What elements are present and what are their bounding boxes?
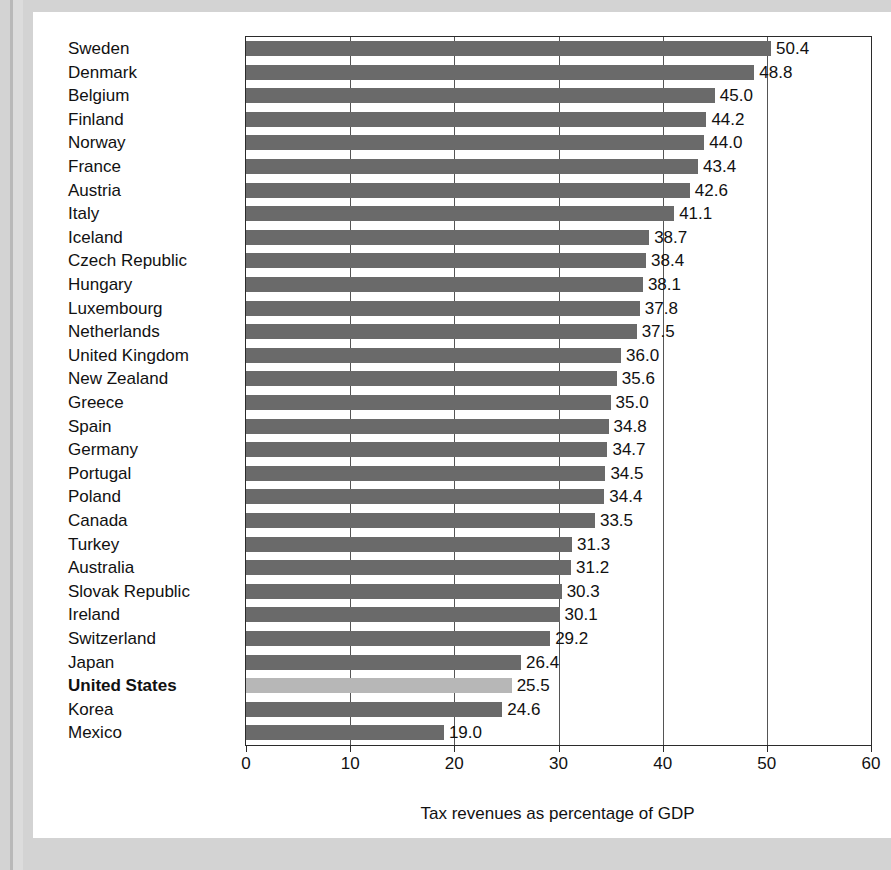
x-axis: 0102030405060 — [245, 746, 872, 780]
category-label: Poland — [68, 485, 210, 508]
bar — [246, 301, 640, 316]
bar — [246, 277, 643, 292]
x-tick-mark — [767, 746, 768, 752]
bar-value-label: 31.3 — [577, 534, 610, 555]
bar — [246, 631, 550, 646]
bar-value-label: 37.8 — [645, 298, 678, 319]
x-tick-mark — [454, 746, 455, 752]
bar-value-label: 38.1 — [648, 274, 681, 295]
bar-row: 34.4 — [246, 485, 871, 508]
category-label: New Zealand — [68, 367, 210, 390]
bar-value-label: 35.6 — [622, 368, 655, 389]
category-label: Czech Republic — [68, 249, 210, 272]
category-label: Turkey — [68, 533, 210, 556]
category-label: United Kingdom — [68, 344, 210, 367]
category-label: Switzerland — [68, 627, 210, 650]
x-tick-mark — [350, 746, 351, 752]
category-label: Finland — [68, 108, 210, 131]
bar — [246, 489, 604, 504]
bar-value-label: 19.0 — [449, 722, 482, 743]
bar — [246, 560, 571, 575]
bar-row: 34.8 — [246, 415, 871, 438]
category-label: France — [68, 155, 210, 178]
category-label: Slovak Republic — [68, 580, 210, 603]
bar-row: 42.6 — [246, 179, 871, 202]
bar — [246, 678, 512, 693]
bar-row: 50.4 — [246, 37, 871, 60]
bar — [246, 466, 605, 481]
bar-value-label: 43.4 — [703, 156, 736, 177]
bar-value-label: 29.2 — [555, 628, 588, 649]
bar — [246, 230, 649, 245]
bar — [246, 183, 690, 198]
chart-area: SwedenDenmarkBelgiumFinlandNorwayFranceA… — [68, 36, 878, 776]
bar-value-label: 30.1 — [565, 604, 598, 625]
bar-value-label: 41.1 — [679, 203, 712, 224]
bar — [246, 607, 560, 622]
bar — [246, 537, 572, 552]
bar-row: 35.6 — [246, 367, 871, 390]
bar-row: 35.0 — [246, 391, 871, 414]
category-label: Spain — [68, 415, 210, 438]
bar — [246, 112, 706, 127]
bar-value-label: 50.4 — [776, 38, 809, 59]
bar-row: 44.0 — [246, 131, 871, 154]
bar-row: 30.3 — [246, 580, 871, 603]
bar-row: 29.2 — [246, 627, 871, 650]
figure-card: SwedenDenmarkBelgiumFinlandNorwayFranceA… — [33, 12, 891, 838]
x-tick-label: 0 — [241, 754, 250, 774]
bar-value-label: 34.5 — [610, 463, 643, 484]
bar — [246, 442, 607, 457]
bar-value-label: 36.0 — [626, 345, 659, 366]
bar-value-label: 34.4 — [609, 486, 642, 507]
bar-value-label: 25.5 — [517, 675, 550, 696]
bar-value-label: 26.4 — [526, 652, 559, 673]
x-tick-label: 30 — [549, 754, 568, 774]
x-tick-label: 60 — [862, 754, 881, 774]
bar-value-label: 30.3 — [567, 581, 600, 602]
category-label: Hungary — [68, 273, 210, 296]
category-label: Germany — [68, 438, 210, 461]
bar-row: 19.0 — [246, 721, 871, 744]
bar — [246, 253, 646, 268]
category-label: Portugal — [68, 462, 210, 485]
x-tick-label: 40 — [653, 754, 672, 774]
bar — [246, 41, 771, 56]
bar-value-label: 31.2 — [576, 557, 609, 578]
bar — [246, 702, 502, 717]
x-tick-mark — [871, 746, 872, 752]
category-label: Belgium — [68, 84, 210, 107]
bar-row: 26.4 — [246, 651, 871, 674]
bar-row: 41.1 — [246, 202, 871, 225]
bar — [246, 324, 637, 339]
x-tick-label: 10 — [341, 754, 360, 774]
bar — [246, 584, 562, 599]
bar — [246, 395, 611, 410]
bar-chart-figure: SwedenDenmarkBelgiumFinlandNorwayFranceA… — [33, 12, 891, 838]
bar — [246, 88, 715, 103]
bar — [246, 371, 617, 386]
category-label: Iceland — [68, 226, 210, 249]
bar-row: 48.8 — [246, 61, 871, 84]
bar-row: 38.1 — [246, 273, 871, 296]
bar-row: 34.5 — [246, 462, 871, 485]
bar-value-label: 34.8 — [614, 416, 647, 437]
bar-row: 24.6 — [246, 698, 871, 721]
bar-row: 34.7 — [246, 438, 871, 461]
bar-row: 45.0 — [246, 84, 871, 107]
bar — [246, 513, 595, 528]
bar-row: 37.5 — [246, 320, 871, 343]
x-tick-mark — [246, 746, 247, 752]
bar — [246, 135, 704, 150]
bar — [246, 65, 754, 80]
x-axis-title: Tax revenues as percentage of GDP — [245, 804, 870, 824]
x-tick-label: 20 — [445, 754, 464, 774]
category-label: Japan — [68, 651, 210, 674]
category-axis: SwedenDenmarkBelgiumFinlandNorwayFranceA… — [68, 36, 210, 748]
bar-row: 44.2 — [246, 108, 871, 131]
category-label: Netherlands — [68, 320, 210, 343]
bar-value-label: 44.2 — [711, 109, 744, 130]
bar-value-label: 33.5 — [600, 510, 633, 531]
bar-value-label: 38.4 — [651, 250, 684, 271]
category-label: Austria — [68, 179, 210, 202]
